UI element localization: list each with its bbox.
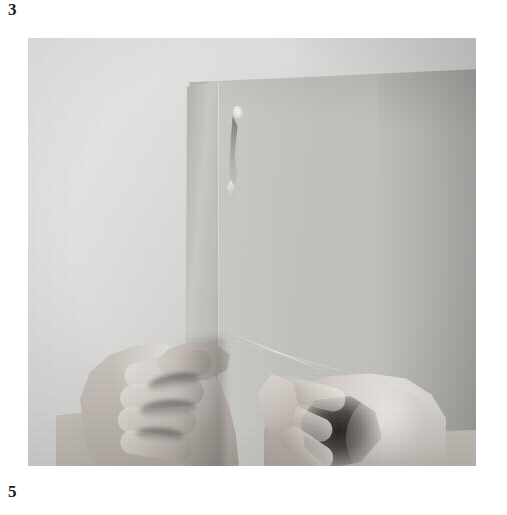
sheet-cast-shadow bbox=[178, 338, 224, 466]
page-number-top: 3 bbox=[8, 1, 17, 18]
photograph bbox=[28, 38, 476, 466]
page-number-bottom: 5 bbox=[8, 483, 17, 500]
